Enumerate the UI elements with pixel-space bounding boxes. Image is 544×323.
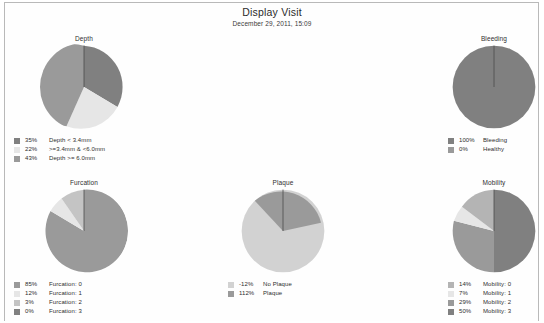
legend-label: Mobility: 2: [483, 298, 511, 307]
legend-label: Healthy: [483, 145, 504, 154]
chart-panel-depth: Depth 35% Depth < 3.4mm 22% >=3.4mm &: [14, 34, 154, 163]
chart-panel-furcation: Furcation 85% Furcation: 0 12% Furcation…: [14, 178, 154, 316]
pie-chart-mobility: [448, 187, 540, 275]
legend-item: 29% Mobility: 2: [448, 298, 540, 307]
legend-swatch-icon: [14, 147, 20, 153]
legend-swatch-icon: [14, 156, 20, 162]
legend-label: Plaque: [263, 289, 282, 298]
legend-mobility: 14% Mobility: 0 7% Mobility: 1 29% Mobil…: [448, 280, 540, 316]
pie-chart-depth: [14, 43, 154, 131]
pie-chart-plaque: [228, 187, 338, 275]
legend-swatch-icon: [14, 282, 20, 288]
report-page: Display Visit December 29, 2011, 15:09 D…: [0, 0, 544, 323]
legend-depth: 35% Depth < 3.4mm 22% >=3.4mm & <6.0mm 4…: [14, 136, 154, 163]
legend-item: -12% No Plaque: [228, 280, 338, 289]
legend-swatch-icon: [448, 309, 454, 315]
pie-chart-furcation: [14, 187, 154, 275]
report-timestamp: December 29, 2011, 15:09: [0, 19, 544, 29]
chart-panel-plaque: Plaque -12% No Plaque 112% Plaque: [228, 178, 338, 298]
legend-percent: 100%: [459, 136, 483, 145]
legend-label: Mobility: 0: [483, 280, 511, 289]
legend-swatch-icon: [228, 291, 234, 297]
legend-percent: 12%: [25, 289, 49, 298]
chart-title-depth: Depth: [14, 34, 154, 43]
legend-item: 22% >=3.4mm & <6.0mm: [14, 145, 154, 154]
chart-title-mobility: Mobility: [448, 178, 540, 187]
legend-percent: 85%: [25, 280, 49, 289]
legend-percent: 0%: [25, 307, 49, 316]
pie-svg-mobility: [450, 187, 538, 275]
page-title: Display Visit: [0, 6, 544, 19]
legend-percent: 22%: [25, 145, 49, 154]
pie-svg-furcation: [40, 187, 128, 275]
legend-item: 0% Furcation: 3: [14, 307, 154, 316]
legend-swatch-icon: [14, 138, 20, 144]
chart-title-plaque: Plaque: [228, 178, 338, 187]
legend-percent: 50%: [459, 307, 483, 316]
chart-title-furcation: Furcation: [14, 178, 154, 187]
legend-swatch-icon: [448, 300, 454, 306]
legend-swatch-icon: [228, 282, 234, 288]
legend-item: 12% Furcation: 1: [14, 289, 154, 298]
legend-swatch-icon: [14, 291, 20, 297]
legend-label: Furcation: 1: [49, 289, 82, 298]
legend-percent: 7%: [459, 289, 483, 298]
chart-panel-bleeding: Bleeding 100% Bleeding 0% Healthy: [448, 34, 540, 154]
report-header: Display Visit December 29, 2011, 15:09: [0, 6, 544, 29]
legend-swatch-icon: [14, 300, 20, 306]
legend-label: No Plaque: [263, 280, 292, 289]
legend-furcation: 85% Furcation: 0 12% Furcation: 1 3% Fur…: [14, 280, 154, 316]
legend-swatch-icon: [448, 138, 454, 144]
legend-percent: -12%: [239, 280, 263, 289]
pie-svg-bleeding: [450, 43, 538, 131]
legend-percent: 14%: [459, 280, 483, 289]
legend-label: Furcation: 2: [49, 298, 82, 307]
legend-item: 100% Bleeding: [448, 136, 540, 145]
legend-swatch-icon: [448, 291, 454, 297]
legend-swatch-icon: [448, 147, 454, 153]
pie-svg-plaque: [239, 187, 327, 275]
legend-percent: 43%: [25, 154, 49, 163]
legend-item: 0% Healthy: [448, 145, 540, 154]
pie-svg-depth: [40, 43, 128, 131]
legend-label: Furcation: 0: [49, 280, 82, 289]
legend-plaque: -12% No Plaque 112% Plaque: [228, 280, 338, 298]
legend-label: Depth < 3.4mm: [49, 136, 92, 145]
legend-item: 7% Mobility: 1: [448, 289, 540, 298]
pie-slice-mobility-3: [494, 190, 535, 273]
pie-chart-bleeding: [448, 43, 540, 131]
legend-percent: 112%: [239, 289, 263, 298]
legend-label: Mobility: 3: [483, 307, 511, 316]
legend-item: 14% Mobility: 0: [448, 280, 540, 289]
legend-label: Bleeding: [483, 136, 507, 145]
legend-label: Furcation: 3: [49, 307, 82, 316]
chart-panel-mobility: Mobility 14% Mobility: 0: [448, 178, 540, 316]
chart-title-bleeding: Bleeding: [448, 34, 540, 43]
legend-item: 85% Furcation: 0: [14, 280, 154, 289]
legend-label: Depth >= 6.0mm: [49, 154, 95, 163]
legend-percent: 29%: [459, 298, 483, 307]
legend-percent: 35%: [25, 136, 49, 145]
legend-percent: 3%: [25, 298, 49, 307]
legend-item: 35% Depth < 3.4mm: [14, 136, 154, 145]
legend-item: 43% Depth >= 6.0mm: [14, 154, 154, 163]
legend-swatch-icon: [448, 282, 454, 288]
legend-item: 112% Plaque: [228, 289, 338, 298]
legend-label: >=3.4mm & <6.0mm: [49, 145, 105, 154]
legend-bleeding: 100% Bleeding 0% Healthy: [448, 136, 540, 154]
legend-swatch-icon: [14, 309, 20, 315]
legend-item: 50% Mobility: 3: [448, 307, 540, 316]
legend-label: Mobility: 1: [483, 289, 511, 298]
legend-item: 3% Furcation: 2: [14, 298, 154, 307]
legend-percent: 0%: [459, 145, 483, 154]
